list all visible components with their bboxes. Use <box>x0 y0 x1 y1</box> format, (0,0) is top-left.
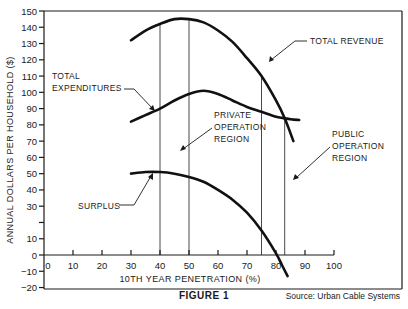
svg-text:REGION: REGION <box>332 153 367 163</box>
y-tick-label: 0 <box>32 250 37 261</box>
y-tick-label: 130 <box>21 38 37 49</box>
annotation-surplus: SURPLUS <box>78 173 153 211</box>
y-tick-label: 120 <box>21 54 37 65</box>
source-note: Source: Urban Cable Systems <box>286 291 400 301</box>
y-tick-label: −10 <box>21 266 37 277</box>
x-tick-label: 30 <box>126 260 137 271</box>
y-tick-label: 110 <box>22 71 37 82</box>
annotation-public-region: PUBLIC OPERATION REGION <box>293 129 384 180</box>
y-tick-label: 60 <box>26 152 37 163</box>
x-tick-label: 40 <box>155 260 166 271</box>
svg-text:TOTAL: TOTAL <box>52 71 80 81</box>
annotation-private-region: PRIVATE OPERATION REGION <box>180 110 266 151</box>
y-tick-label: 50 <box>26 168 37 179</box>
y-tick-label: 150 <box>21 6 37 17</box>
y-tick-label: 100 <box>21 87 37 98</box>
x-axis-title: 10TH YEAR PENETRATION (%) <box>119 274 260 284</box>
svg-text:PRIVATE: PRIVATE <box>214 110 251 120</box>
y-axis-ticks: 15014013012011010090807060504030100−10−2… <box>21 6 44 294</box>
svg-text:EXPENDITURES: EXPENDITURES <box>52 83 122 93</box>
x-axis-ticks: 0102030405060708090100 <box>45 250 342 271</box>
x-tick-label: 20 <box>97 260 108 271</box>
x-tick-label: 90 <box>300 260 311 271</box>
x-tick-label: 100 <box>326 260 342 271</box>
y-tick-label: 140 <box>21 22 37 33</box>
svg-text:OPERATION: OPERATION <box>332 141 384 151</box>
x-tick-label: 60 <box>213 260 224 271</box>
y-tick-label: 10 <box>26 233 37 244</box>
arrow-icon <box>269 56 274 62</box>
arrow-icon <box>180 145 186 151</box>
svg-text:SURPLUS: SURPLUS <box>78 201 120 211</box>
annotation-total-revenue: TOTAL REVENUE <box>269 36 384 62</box>
svg-text:REGION: REGION <box>214 134 249 144</box>
y-tick-label: 70 <box>26 136 37 147</box>
y-axis-title: ANNUAL DOLLARS PER HOUSEHOLD ($) <box>5 56 15 244</box>
x-tick-label: 10 <box>68 260 79 271</box>
y-tick-label: 30 <box>26 201 37 212</box>
svg-text:OPERATION: OPERATION <box>214 122 266 132</box>
x-tick-label: 70 <box>242 260 253 271</box>
x-tick-label: 0 <box>45 260 50 271</box>
total-revenue-curve <box>131 19 293 142</box>
chart: 0102030405060708090100 15014013012011010… <box>0 0 408 309</box>
x-tick-label: 50 <box>184 260 195 271</box>
svg-text:PUBLIC: PUBLIC <box>332 129 365 139</box>
y-tick-label: 40 <box>26 184 37 195</box>
annotation-total-expenditures: TOTAL EXPENDITURES <box>52 71 155 111</box>
arrow-icon <box>293 174 299 180</box>
svg-text:TOTAL REVENUE: TOTAL REVENUE <box>310 36 384 46</box>
y-tick-label: 90 <box>26 103 37 114</box>
y-tick-label: 80 <box>26 119 37 130</box>
